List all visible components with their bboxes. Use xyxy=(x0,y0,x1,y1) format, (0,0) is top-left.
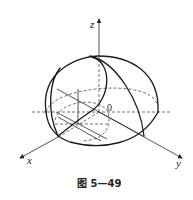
right-cutting-curve xyxy=(90,56,144,136)
hemisphere-diagram: z x y 0 图 5—49 xyxy=(0,0,193,200)
section-line-3 xyxy=(58,117,101,141)
inner-circle-dashed xyxy=(55,102,109,141)
x-axis xyxy=(20,136,60,158)
base-ellipse-front xyxy=(46,112,158,146)
origin-label: 0 xyxy=(107,102,112,113)
left-cylinder-edge xyxy=(51,68,60,136)
section-line-1 xyxy=(57,89,143,136)
y-axis-label: y xyxy=(175,157,181,169)
x-axis-label: x xyxy=(26,154,32,166)
section-line-2 xyxy=(56,112,107,139)
figure-caption: 图 5—49 xyxy=(77,178,121,189)
z-axis-label: z xyxy=(89,18,95,30)
